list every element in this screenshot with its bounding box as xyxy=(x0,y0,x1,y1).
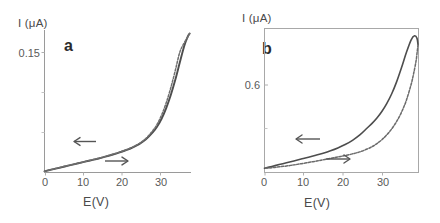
panel-b-plot xyxy=(220,0,440,223)
panel-b-reverse-sweep-curve xyxy=(265,45,419,169)
panel-b-forward-sweep-curve xyxy=(265,36,419,168)
panel-a-forward-arrow xyxy=(105,157,128,165)
figure-iv-curves: I (μA) a 0.15 0 10 20 30 E(V) xyxy=(0,0,440,223)
panel-a-plot xyxy=(0,0,220,223)
panel-b-frame xyxy=(265,29,419,173)
panel-b-reverse-arrow xyxy=(296,135,320,143)
panel-a-forward-sweep-curve xyxy=(45,34,190,172)
panel-b: I (μA) b 0.6 0 10 20 30 E(V) xyxy=(220,0,440,223)
panel-b-forward-arrow xyxy=(326,155,350,163)
panel-a: I (μA) a 0.15 0 10 20 30 E(V) xyxy=(0,0,220,223)
panel-a-reverse-arrow xyxy=(74,138,96,146)
